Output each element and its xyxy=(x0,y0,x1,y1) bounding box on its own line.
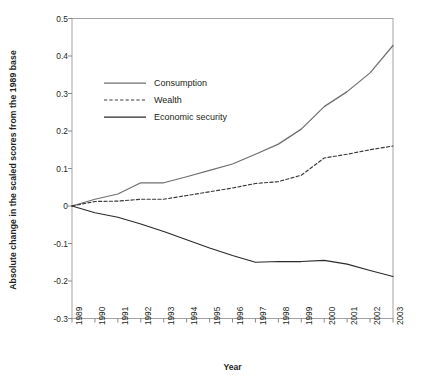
x-tick-label: 1990 xyxy=(98,307,107,325)
y-tick-marks xyxy=(68,19,72,319)
y-tick-label: 0.3 xyxy=(56,89,68,99)
x-tick-label: 1993 xyxy=(167,307,176,325)
y-axis-title: Absolute change in the scaled scores fro… xyxy=(0,0,26,340)
x-tick-label: 1997 xyxy=(259,307,268,325)
y-axis-tick-labels: 0.50.40.30.20.10-0.1-0.2-0.3 xyxy=(26,0,68,383)
y-tick-label: -0.3 xyxy=(54,314,68,324)
x-tick-label: 2000 xyxy=(328,307,337,325)
chart-figure: Absolute change in the scaled scores fro… xyxy=(0,0,429,383)
y-tick-label: 0.5 xyxy=(56,14,68,24)
x-tick-label: 1996 xyxy=(236,307,245,325)
x-axis-title: Year xyxy=(72,362,393,372)
y-tick-label: -0.1 xyxy=(54,239,68,249)
legend-item-label: Wealth xyxy=(154,95,182,105)
x-tick-label: 1989 xyxy=(75,307,84,325)
x-tick-label: 2003 xyxy=(396,307,405,325)
x-tick-label: 1991 xyxy=(121,307,130,325)
x-tick-label: 2001 xyxy=(350,307,359,325)
x-tick-label: 1998 xyxy=(282,307,291,325)
x-tick-label: 1994 xyxy=(190,307,199,325)
y-tick-label: -0.2 xyxy=(54,276,68,286)
plot-frame xyxy=(72,19,393,319)
x-tick-label: 2002 xyxy=(373,307,382,325)
y-tick-label: 0 xyxy=(63,201,68,211)
y-axis-title-text: Absolute change in the scaled scores fro… xyxy=(8,50,18,290)
y-tick-label: 0.2 xyxy=(56,126,68,136)
legend-item-label: Consumption xyxy=(154,78,207,88)
x-tick-label: 1995 xyxy=(213,307,222,325)
legend-item-label: Economic security xyxy=(154,112,227,122)
x-tick-label: 1999 xyxy=(305,307,314,325)
x-tick-label: 1992 xyxy=(144,307,153,325)
y-tick-label: 0.4 xyxy=(56,51,68,61)
y-tick-label: 0.1 xyxy=(56,164,68,174)
